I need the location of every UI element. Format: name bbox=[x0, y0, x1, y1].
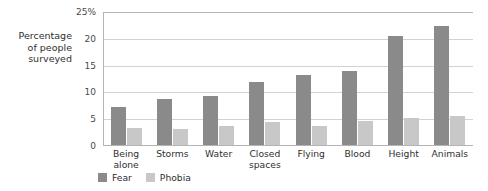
bar-phobia bbox=[219, 126, 234, 145]
bar-chart-figure: Percentage of people surveyed 0510152025… bbox=[0, 0, 488, 191]
x-label: Being alone bbox=[103, 149, 149, 171]
bar-fear bbox=[296, 75, 311, 145]
bar-group bbox=[388, 12, 419, 145]
x-label: Blood bbox=[334, 149, 380, 160]
bar-fear bbox=[203, 96, 218, 145]
bar-group bbox=[157, 12, 188, 145]
y-tick-label-20: 20 bbox=[62, 33, 96, 43]
bar-fear bbox=[434, 26, 449, 145]
x-label: Water bbox=[196, 149, 242, 160]
bar-group bbox=[249, 12, 280, 145]
legend-swatch-icon bbox=[146, 173, 155, 182]
bar-fear bbox=[249, 82, 264, 145]
legend-label: Fear bbox=[112, 172, 132, 183]
bar-fear bbox=[388, 36, 403, 145]
plot-area bbox=[103, 12, 473, 146]
bar-phobia bbox=[358, 121, 373, 145]
chart-legend: FearPhobia bbox=[98, 172, 191, 183]
legend-item-phobia: Phobia bbox=[146, 172, 191, 183]
legend-item-fear: Fear bbox=[98, 172, 132, 183]
bar-group bbox=[203, 12, 234, 145]
y-tick-label-5: 5 bbox=[62, 114, 96, 124]
y-tick-label-10: 10 bbox=[62, 87, 96, 97]
bar-phobia bbox=[450, 116, 465, 145]
bar-phobia bbox=[265, 122, 280, 145]
x-label: Flying bbox=[288, 149, 334, 160]
bar-group bbox=[434, 12, 465, 145]
legend-swatch-icon bbox=[98, 173, 107, 182]
bar-fear bbox=[157, 99, 172, 145]
bar-group bbox=[342, 12, 373, 145]
y-tick-label-0: 0 bbox=[62, 141, 96, 151]
x-label: Closed spaces bbox=[242, 149, 288, 171]
y-tick-label-25: 25% bbox=[62, 7, 96, 17]
y-axis-tick-labels: 0510152025% bbox=[62, 12, 100, 146]
x-label: Storms bbox=[149, 149, 195, 160]
bar-phobia bbox=[173, 129, 188, 145]
x-label: Animals bbox=[427, 149, 473, 160]
bar-phobia bbox=[404, 118, 419, 145]
bar-phobia bbox=[127, 128, 142, 145]
x-label: Height bbox=[381, 149, 427, 160]
y-tick-label-15: 15 bbox=[62, 60, 96, 70]
bar-group bbox=[296, 12, 327, 145]
legend-label: Phobia bbox=[160, 172, 191, 183]
bar-phobia bbox=[312, 126, 327, 145]
bar-group bbox=[111, 12, 142, 145]
bars-layer bbox=[104, 12, 473, 145]
bar-fear bbox=[342, 71, 357, 145]
bar-fear bbox=[111, 107, 126, 145]
